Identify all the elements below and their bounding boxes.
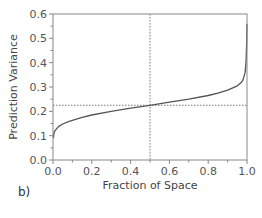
y-tick-label: 0.5	[30, 32, 48, 45]
x-tick-label: 0.6	[161, 165, 179, 178]
y-tick-label: 0.1	[30, 130, 48, 143]
y-tick-label: 0.4	[30, 57, 48, 70]
x-tick-label: 1.0	[238, 165, 256, 178]
y-tick-label: 0.2	[30, 105, 48, 118]
y-tick-label: 0.3	[30, 81, 48, 94]
x-tick-label: 0.2	[83, 165, 101, 178]
plot-area: 0.00.20.40.60.81.00.00.10.20.30.40.50.6F…	[7, 8, 256, 192]
y-tick-label: 0.0	[30, 154, 48, 167]
x-tick-label: 0.4	[122, 165, 140, 178]
y-tick-label: 0.6	[30, 8, 48, 21]
y-axis-title: Prediction Variance	[7, 34, 20, 140]
x-axis-title: Fraction of Space	[102, 179, 197, 192]
panel-label: b)	[18, 185, 30, 199]
x-tick-label: 0.8	[199, 165, 217, 178]
prediction-variance-chart: 0.00.20.40.60.81.00.00.10.20.30.40.50.6F…	[0, 0, 262, 218]
